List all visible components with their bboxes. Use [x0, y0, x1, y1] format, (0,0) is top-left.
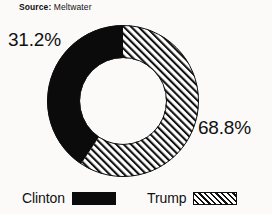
donut-svg — [47, 25, 199, 177]
legend-label-clinton: Clinton — [22, 190, 65, 206]
donut-chart-figure: Source: Meltwater — [0, 0, 272, 214]
legend-swatch-trump — [193, 192, 237, 205]
legend-label-trump: Trump — [147, 190, 186, 206]
source-label: Source: — [19, 2, 51, 12]
donut-graphic — [47, 25, 199, 177]
source-value: Meltwater — [54, 2, 92, 12]
data-label-clinton: 31.2% — [8, 29, 61, 51]
legend-swatch-clinton — [72, 192, 116, 205]
legend-item-clinton: Clinton — [22, 186, 116, 210]
chart-legend: Clinton Trump — [0, 186, 272, 210]
source-attribution: Source: Meltwater — [19, 2, 92, 13]
data-label-trump: 68.8% — [198, 117, 251, 139]
legend-item-trump: Trump — [147, 186, 237, 210]
